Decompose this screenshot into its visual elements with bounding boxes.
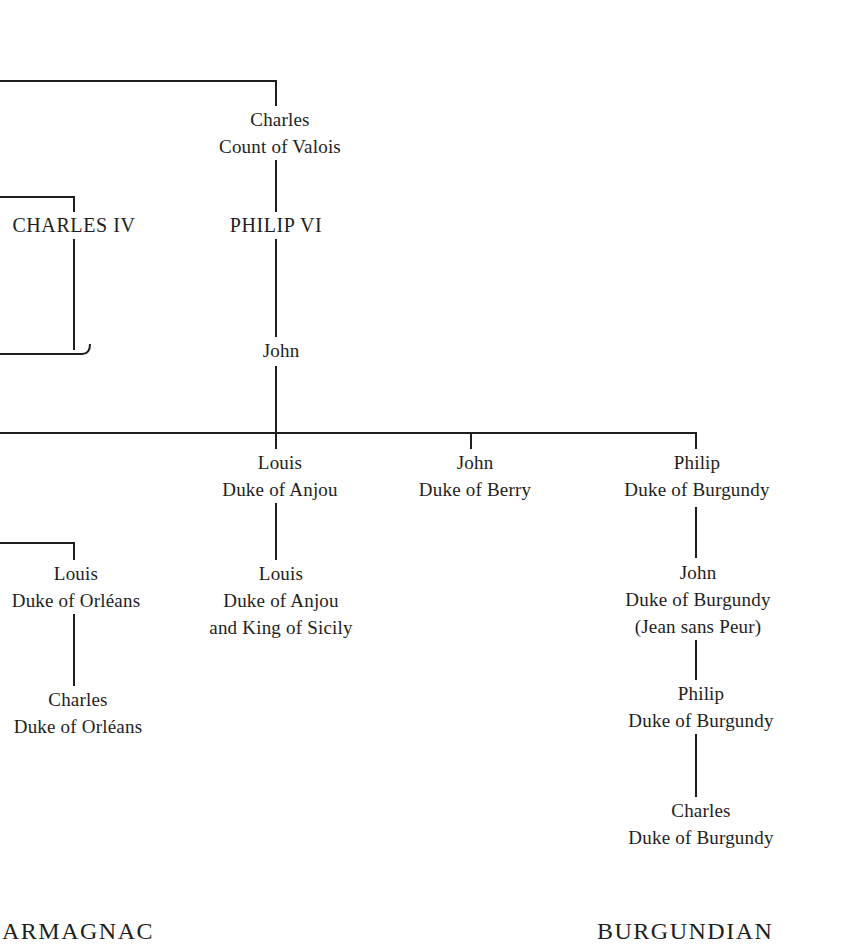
node-title: Duke of Burgundy bbox=[622, 476, 771, 503]
node-title: Duke of Berry bbox=[417, 476, 533, 503]
node-name: John bbox=[261, 337, 302, 364]
node-name: Louis bbox=[220, 449, 340, 476]
node-name: PHILIP VI bbox=[228, 212, 325, 239]
node-title: Duke of Burgundy bbox=[626, 824, 775, 851]
node-charles-duke-of-burgundy: Charles Duke of Burgundy bbox=[626, 797, 775, 851]
node-john-duke-of-burgundy: John Duke of Burgundy (Jean sans Peur) bbox=[623, 559, 772, 640]
node-louis-duke-of-orleans: Louis Duke of Orléans bbox=[10, 560, 143, 614]
node-name: CHARLES IV bbox=[10, 212, 137, 239]
node-charles-duke-of-orleans: Charles Duke of Orléans bbox=[12, 686, 145, 740]
node-epithet: (Jean sans Peur) bbox=[623, 613, 772, 640]
node-title: Duke of Anjou bbox=[207, 587, 354, 614]
node-title-extra: and King of Sicily bbox=[207, 614, 354, 641]
node-title: Count of Valois bbox=[217, 133, 343, 160]
connector-charles-iv-bottom-curve bbox=[0, 344, 90, 354]
node-philip-vi: PHILIP VI bbox=[228, 212, 325, 239]
node-title: Duke of Burgundy bbox=[623, 586, 772, 613]
node-john: John bbox=[261, 337, 302, 364]
node-name: John bbox=[417, 449, 533, 476]
node-name: Louis bbox=[207, 560, 354, 587]
node-charles-iv: CHARLES IV bbox=[10, 212, 137, 239]
faction-label-armagnac: ARMAGNAC bbox=[2, 918, 154, 945]
node-name: Charles bbox=[12, 686, 145, 713]
node-title: Duke of Orléans bbox=[10, 587, 143, 614]
node-title: Duke of Burgundy bbox=[626, 707, 775, 734]
node-name: Philip bbox=[622, 449, 771, 476]
node-louis-duke-of-anjou: Louis Duke of Anjou bbox=[220, 449, 340, 503]
node-title: Duke of Anjou bbox=[220, 476, 340, 503]
node-title: Duke of Orléans bbox=[12, 713, 145, 740]
node-louis-anjou-king-of-sicily: Louis Duke of Anjou and King of Sicily bbox=[207, 560, 354, 641]
node-name: Philip bbox=[626, 680, 775, 707]
node-philip-duke-of-burgundy-2: Philip Duke of Burgundy bbox=[626, 680, 775, 734]
node-name: John bbox=[623, 559, 772, 586]
node-name: Louis bbox=[10, 560, 143, 587]
node-name: Charles bbox=[217, 106, 343, 133]
connector-top-to-charles-valois bbox=[0, 81, 276, 108]
connector-sibling-bar bbox=[0, 433, 696, 452]
node-john-duke-of-berry: John Duke of Berry bbox=[417, 449, 533, 503]
node-name: Charles bbox=[626, 797, 775, 824]
node-philip-duke-of-burgundy: Philip Duke of Burgundy bbox=[622, 449, 771, 503]
faction-label-burgundian: BURGUNDIAN bbox=[597, 918, 773, 945]
node-charles-count-of-valois: Charles Count of Valois bbox=[217, 106, 343, 160]
